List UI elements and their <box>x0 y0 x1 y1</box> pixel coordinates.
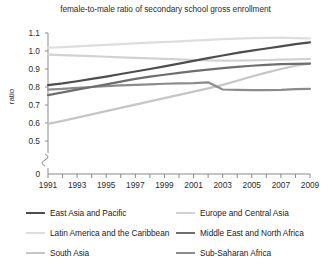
legend-swatch-icon <box>176 252 195 255</box>
legend-label: Latin America and the Caribbean <box>50 228 169 238</box>
chart-legend: East Asia and PacificEurope and Central … <box>0 205 331 265</box>
legend-swatch-icon <box>176 232 195 235</box>
legend-swatch-icon <box>26 252 45 255</box>
legend-item: Europe and Central Asia <box>176 205 289 221</box>
legend-swatch-icon <box>26 232 45 235</box>
legend-item: East Asia and Pacific <box>26 205 126 221</box>
legend-item: South Asia <box>26 245 89 261</box>
legend-label: Middle East and North Africa <box>200 228 304 238</box>
chart-container: female-to-male ratio of secondary school… <box>0 0 331 268</box>
legend-item: Sub-Saharan Africa <box>176 245 271 261</box>
legend-item: Middle East and North Africa <box>176 225 304 241</box>
legend-item: Latin America and the Caribbean <box>26 225 169 241</box>
legend-swatch-icon <box>26 212 45 215</box>
legend-label: South Asia <box>50 248 89 258</box>
legend-swatch-icon <box>176 212 195 215</box>
legend-label: East Asia and Pacific <box>50 208 126 218</box>
legend-label: Sub-Saharan Africa <box>200 248 271 258</box>
series-line <box>48 55 310 61</box>
series-line <box>48 38 310 48</box>
legend-label: Europe and Central Asia <box>200 208 289 218</box>
